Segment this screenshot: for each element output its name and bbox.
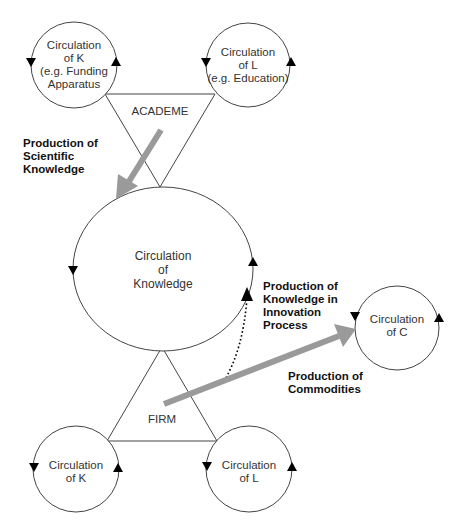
academe-label: ACADEME (125, 105, 195, 118)
firm-triangle (107, 347, 217, 441)
circle-firm-l-label: Circulation of L (209, 459, 289, 485)
circle-knowledge-label: Circulation of Knowledge (118, 249, 208, 291)
scientific-flow-arrow (128, 130, 161, 183)
circle-commodities-c-label: Circulation of C (357, 313, 437, 339)
commodities-flow-label: Production of Commodities (288, 370, 363, 396)
firm-label: FIRM (137, 413, 187, 426)
circle-academe-l-label: Circulation of L (e.g. Education) (203, 46, 293, 85)
circle-firm-k-label: Circulation of K (36, 459, 116, 485)
innovation-flow-label: Production of Knowledge in Innovation Pr… (263, 280, 338, 332)
scientific-flow-label: Production of Scientific Knowledge (23, 137, 98, 176)
circle-academe-k-label: Circulation of K (e.g. Funding Apparatus (34, 39, 114, 91)
